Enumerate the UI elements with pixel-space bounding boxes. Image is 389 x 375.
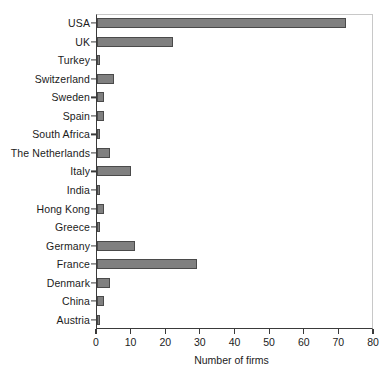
bar-row: France bbox=[0, 255, 389, 274]
category-label: Switzerland bbox=[35, 73, 90, 85]
bar bbox=[97, 278, 111, 288]
x-axis-tick-label: 40 bbox=[229, 336, 241, 348]
bar-row: Sweden bbox=[0, 88, 389, 107]
x-axis-title: Number of firms bbox=[0, 354, 389, 366]
category-tick-mark bbox=[91, 134, 96, 135]
x-axis-tick-label: 60 bbox=[298, 336, 310, 348]
category-label: Spain bbox=[63, 110, 90, 122]
bar bbox=[97, 166, 132, 176]
bar bbox=[97, 259, 197, 269]
category-label: USA bbox=[68, 17, 90, 29]
x-axis-tick-mark bbox=[95, 329, 96, 334]
bar bbox=[97, 185, 100, 195]
bar-row: Italy bbox=[0, 162, 389, 181]
category-label: UK bbox=[75, 36, 90, 48]
bar-row: South Africa bbox=[0, 125, 389, 144]
category-tick-mark bbox=[91, 41, 96, 42]
category-label: Denmark bbox=[47, 277, 90, 289]
category-tick-mark bbox=[91, 97, 96, 98]
bar bbox=[97, 222, 100, 232]
bar-row: USA bbox=[0, 14, 389, 33]
bar bbox=[97, 18, 346, 28]
bar-chart: USAUKTurkeySwitzerlandSwedenSpainSouth A… bbox=[0, 0, 389, 375]
x-axis-tick-label: 30 bbox=[194, 336, 206, 348]
category-tick-mark bbox=[91, 78, 96, 79]
bar bbox=[97, 315, 100, 325]
bar bbox=[97, 148, 111, 158]
category-tick-mark bbox=[91, 208, 96, 209]
x-axis-tick-mark bbox=[165, 329, 166, 334]
bar bbox=[97, 129, 100, 139]
x-axis-tick-label: 80 bbox=[367, 336, 379, 348]
x-axis-tick-mark bbox=[199, 329, 200, 334]
x-axis-tick-mark bbox=[130, 329, 131, 334]
bar-row: China bbox=[0, 292, 389, 311]
category-label: Germany bbox=[46, 240, 90, 252]
bar-row: Greece bbox=[0, 218, 389, 237]
category-tick-mark bbox=[91, 23, 96, 24]
bar bbox=[97, 37, 173, 47]
category-label: India bbox=[67, 184, 90, 196]
category-tick-mark bbox=[91, 226, 96, 227]
category-label: South Africa bbox=[32, 128, 90, 140]
bar bbox=[97, 296, 104, 306]
bar-row: Denmark bbox=[0, 273, 389, 292]
category-tick-mark bbox=[91, 115, 96, 116]
bar-row: Turkey bbox=[0, 51, 389, 70]
category-label: The Netherlands bbox=[11, 147, 90, 159]
category-tick-mark bbox=[91, 319, 96, 320]
x-axis-tick-mark bbox=[269, 329, 270, 334]
x-axis-tick-label: 10 bbox=[125, 336, 137, 348]
category-label: China bbox=[62, 295, 90, 307]
category-label: Austria bbox=[57, 314, 90, 326]
category-tick-mark bbox=[91, 245, 96, 246]
category-label: Hong Kong bbox=[37, 203, 90, 215]
bar bbox=[97, 241, 135, 251]
x-axis-tick-label: 0 bbox=[93, 336, 99, 348]
bar-row: Germany bbox=[0, 236, 389, 255]
category-label: Italy bbox=[70, 165, 90, 177]
x-axis-tick-label: 70 bbox=[333, 336, 345, 348]
bar-row: India bbox=[0, 181, 389, 200]
bar-row: The Netherlands bbox=[0, 144, 389, 163]
x-axis-tick-mark bbox=[338, 329, 339, 334]
x-axis: Number of firms 01020304050607080 bbox=[0, 329, 389, 375]
bar-row: Switzerland bbox=[0, 70, 389, 89]
bar-row: Hong Kong bbox=[0, 199, 389, 218]
bar-row: UK bbox=[0, 33, 389, 52]
bar bbox=[97, 74, 114, 84]
category-tick-mark bbox=[91, 152, 96, 153]
x-axis-tick-mark bbox=[234, 329, 235, 334]
x-axis-tick-label: 50 bbox=[263, 336, 275, 348]
category-tick-mark bbox=[91, 282, 96, 283]
x-axis-title-text: Number of firms bbox=[194, 354, 269, 366]
bar-row: Spain bbox=[0, 107, 389, 126]
category-label: Greece bbox=[55, 221, 90, 233]
bar bbox=[97, 204, 104, 214]
bar-row: Austria bbox=[0, 310, 389, 329]
category-tick-mark bbox=[91, 60, 96, 61]
category-tick-mark bbox=[91, 171, 96, 172]
bar-rows: USAUKTurkeySwitzerlandSwedenSpainSouth A… bbox=[0, 14, 389, 329]
category-label: France bbox=[57, 258, 90, 270]
x-axis-tick-mark bbox=[372, 329, 373, 334]
bar bbox=[97, 111, 104, 121]
bar bbox=[97, 55, 100, 65]
category-label: Sweden bbox=[51, 91, 90, 103]
bar bbox=[97, 92, 104, 102]
category-label: Turkey bbox=[58, 54, 90, 66]
category-tick-mark bbox=[91, 301, 96, 302]
x-axis-tick-label: 20 bbox=[159, 336, 171, 348]
category-tick-mark bbox=[91, 264, 96, 265]
x-axis-tick-mark bbox=[303, 329, 304, 334]
category-tick-mark bbox=[91, 189, 96, 190]
